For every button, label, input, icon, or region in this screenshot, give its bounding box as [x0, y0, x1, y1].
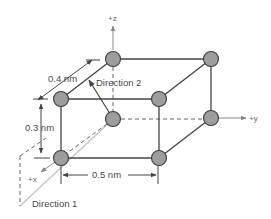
atom-back-top-right: [204, 52, 219, 67]
atom-front-bottom-right: [152, 151, 167, 166]
dimension-c-label: 0.3 nm: [25, 122, 54, 133]
cell-edges: [61, 59, 211, 158]
x-axis-arrow: [41, 162, 55, 172]
atom-back-bottom-left: [106, 112, 121, 127]
direction-2-label: Direction 2: [96, 77, 141, 88]
atom-front-top-right: [152, 92, 167, 107]
direction-1-label: Direction 1: [32, 198, 77, 209]
unit-cell-diagram: +z +y +x 0.4 nm 0.3 nm 0.5 nm Direction …: [0, 0, 271, 219]
z-axis-label: +z: [108, 14, 117, 23]
dimension-a-label: 0.4 nm: [48, 73, 77, 84]
atom-back-top-left: [106, 52, 121, 67]
y-axis-label: +y: [249, 114, 258, 123]
atom-front-bottom-left: [54, 151, 69, 166]
atom-back-bottom-right: [204, 111, 219, 126]
atom-front-top-left: [54, 92, 69, 107]
dimension-b-label: 0.5 nm: [92, 169, 121, 180]
x-axis-label: +x: [28, 175, 37, 184]
atoms: [54, 52, 219, 166]
